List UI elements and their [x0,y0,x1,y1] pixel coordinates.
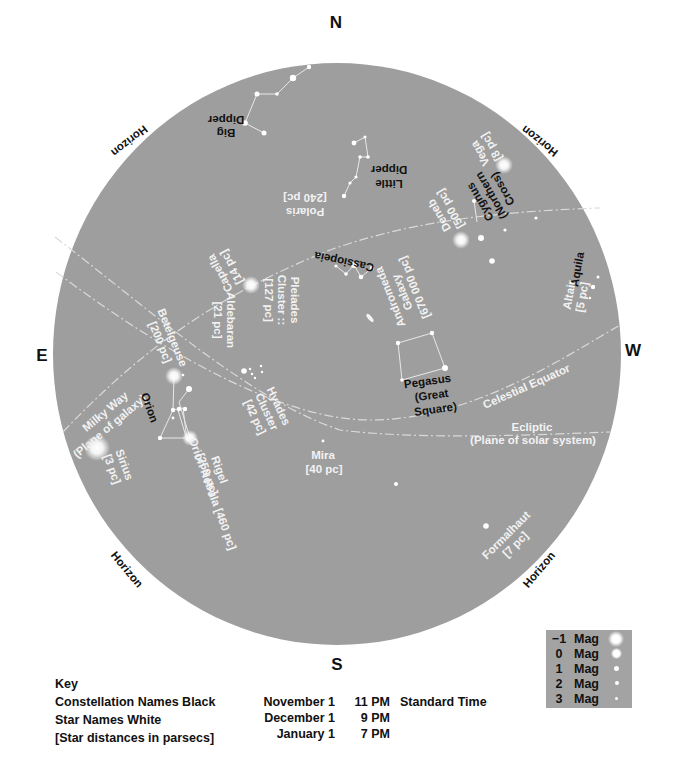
viewing-times: November 1 11 PM Standard Time December … [255,694,487,742]
magnitude-unit: Mag [574,647,599,661]
aldebaran-label: Aldebaran [225,292,237,348]
time-note: Standard Time [400,694,487,710]
key-item-stars: Star Names White [55,711,215,729]
time-date: January 1 [255,726,335,742]
magnitude-value: −1 [550,632,568,646]
magnitude-value: 2 [550,677,568,691]
ecliptic-label: Ecliptic [512,421,554,433]
magnitude-row: 2Mag [550,677,599,692]
pleiades-distance: [127 pc] [263,278,275,322]
time-hour: 11 PM [335,694,390,710]
polaris-label: Polaris [286,206,324,218]
pleiades-cluster-label: Cluster :: [276,275,288,325]
time-row: January 1 7 PM [255,726,487,742]
compass-north: N [330,13,342,32]
magnitude-unit: Mag [574,632,599,646]
magnitude-unit: Mag [574,692,599,706]
magnitude-value: 1 [550,662,568,676]
big-dipper-label-1: Big [217,127,236,139]
compass-west: W [625,341,642,360]
star-deneb [452,231,470,249]
mira-distance: [40 pc] [305,463,342,475]
sky-disc [53,63,621,645]
pleiades-label: Pleiades [289,277,301,324]
magnitude-row: 3Mag [550,692,599,707]
magnitude-unit: Mag [574,677,599,691]
time-row: December 1 9 PM [255,710,487,726]
magnitude-unit: Mag [574,662,599,676]
time-hour: 9 PM [335,710,390,726]
aldebaran-distance: [21 pc] [212,301,224,338]
magnitude-dot-3 [615,697,618,700]
little-dipper-label-1: Little [375,178,402,190]
compass-south: S [331,655,342,674]
magnitude-row: 0Mag [550,647,599,662]
key-item-constellations: Constellation Names Black [55,693,215,711]
polaris-distance: [240 pc] [283,192,327,204]
compass-east: E [36,346,47,365]
ecliptic-sublabel: (Plane of solar system) [470,434,596,446]
magnitude-legend: −1Mag 0Mag 1Mag 2Mag 3Mag [546,630,632,708]
big-dipper-label-2: Dipper [207,114,244,126]
magnitude-dot-2 [615,681,619,685]
magnitude-row: −1Mag [550,632,599,647]
little-dipper-label-2: Dipper [370,164,407,176]
key-title: Key [55,675,215,693]
magnitude-value: 3 [550,692,568,706]
magnitude-dot-0 [611,648,622,659]
key-block: Key Constellation Names Black Star Names… [55,675,215,747]
time-hour: 7 PM [335,726,390,742]
mira-label: Mira [311,449,335,461]
time-date: December 1 [255,710,335,726]
magnitude-dot-1 [614,666,619,671]
magnitude-value: 0 [550,647,568,661]
time-row: November 1 11 PM Standard Time [255,694,487,710]
magnitude-dot-minus1 [608,631,624,647]
star-capella [242,276,260,294]
key-item-distances: [Star distances in parsecs] [55,729,215,747]
star-betelgeuse [165,367,183,385]
time-date: November 1 [255,694,335,710]
magnitude-row: 1Mag [550,662,599,677]
